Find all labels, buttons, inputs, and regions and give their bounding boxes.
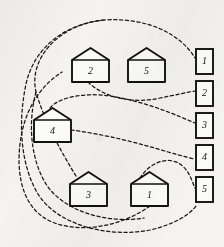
- diagram-canvas: 2 5 4 3: [0, 0, 224, 247]
- network-diagram: 2 5 4 3: [0, 0, 224, 247]
- box-label: 1: [202, 55, 207, 66]
- link-house4-box3: [50, 95, 195, 123]
- numbered-box-4[interactable]: 4: [196, 145, 213, 170]
- link-house3-box1: [35, 20, 195, 176]
- house-node-5[interactable]: 5: [128, 48, 165, 82]
- house-label: 2: [88, 65, 93, 76]
- box-label: 5: [202, 183, 207, 194]
- numbered-box-2[interactable]: 2: [196, 81, 213, 106]
- house-node-4[interactable]: 4: [34, 108, 71, 142]
- link-house4-box4: [71, 130, 195, 159]
- numbered-box-1[interactable]: 1: [196, 49, 213, 74]
- box-label: 4: [202, 151, 207, 162]
- house-node-2[interactable]: 2: [72, 48, 109, 82]
- house-label: 5: [144, 65, 149, 76]
- house-label: 3: [85, 189, 91, 200]
- numbered-box-3[interactable]: 3: [196, 113, 213, 138]
- numbered-box-5[interactable]: 5: [196, 177, 213, 202]
- house-node-3[interactable]: 3: [70, 172, 107, 206]
- house-node-1[interactable]: 1: [131, 172, 168, 206]
- box-label: 2: [202, 87, 207, 98]
- houses-layer: 2 5 4 3: [34, 48, 168, 206]
- house-label: 1: [147, 189, 152, 200]
- link-house2-box2: [88, 82, 195, 100]
- box-label: 3: [201, 119, 207, 130]
- house-label: 4: [50, 125, 55, 136]
- boxes-layer: 1 2 3 4 5: [196, 49, 213, 202]
